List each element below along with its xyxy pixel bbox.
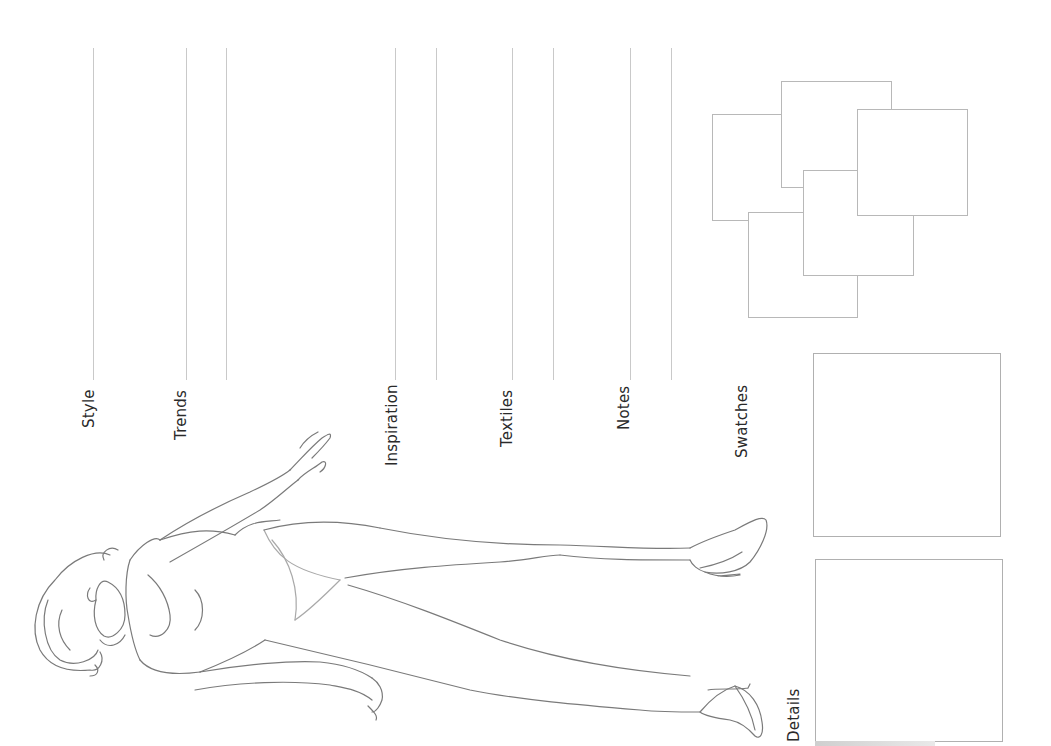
fashion-croquis-figure-icon bbox=[0, 0, 1051, 746]
